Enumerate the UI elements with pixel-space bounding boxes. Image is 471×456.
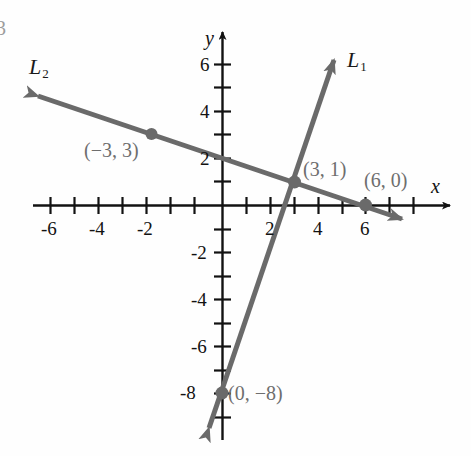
x-tick-label-neg4: -4 (89, 219, 105, 238)
point-label-0-minus8: (0, −8) (228, 383, 283, 403)
line-label-L2-sub: 2 (42, 66, 49, 81)
x-tick-label-6: 6 (360, 219, 370, 238)
point-3-1 (288, 176, 301, 189)
y-tick-label-2: 2 (200, 149, 210, 168)
line-label-L1-sub: 1 (360, 59, 367, 74)
line-label-L2-base: L (29, 54, 41, 79)
point-6-0 (359, 199, 372, 212)
y-axis (214, 32, 231, 440)
point-label-3-1: (3, 1) (303, 159, 346, 179)
line-label-L1-base: L (347, 47, 359, 72)
line-label-L1: L1 (347, 49, 366, 71)
coordinate-plane-figure: 3 (0, 0, 471, 456)
point-minus3-3 (146, 128, 158, 140)
y-tick-label-neg2: -2 (191, 243, 207, 262)
x-tick-label-neg6: -6 (41, 219, 57, 238)
line-L1 (209, 60, 334, 428)
point-label-6-0: (6, 0) (364, 170, 407, 190)
x-tick-label-4: 4 (313, 219, 323, 238)
y-tick-label-neg6: -6 (191, 337, 207, 356)
point-label-minus3-3: (−3, 3) (84, 140, 139, 160)
y-tick-label-4: 4 (200, 102, 210, 121)
point-0-minus8 (216, 387, 229, 400)
line-label-L2: L2 (29, 56, 48, 78)
y-axis-label: y (205, 28, 214, 48)
y-tick-label-neg8: -8 (180, 383, 196, 402)
y-tick-label-neg4: -4 (191, 290, 207, 309)
x-tick-label-neg2: -2 (137, 219, 153, 238)
x-tick-label-2: 2 (265, 219, 275, 238)
y-tick-label-6: 6 (200, 55, 210, 74)
x-axis-label: x (431, 176, 440, 196)
